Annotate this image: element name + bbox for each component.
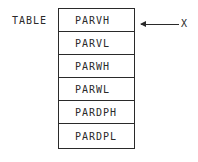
table-label: TABLE: [12, 15, 47, 26]
table-row: PARDPL: [59, 124, 134, 148]
pointer-label: X: [181, 18, 187, 29]
table-row: PARVH: [59, 9, 134, 32]
memory-table: PARVH PARVL PARWH PARWL PARDPH PARDPL: [58, 8, 135, 149]
table-row: PARWH: [59, 55, 134, 78]
pointer-arrow-line: [141, 24, 179, 25]
table-row: PARWL: [59, 78, 134, 101]
table-row: PARVL: [59, 32, 134, 55]
table-row: PARDPH: [59, 101, 134, 124]
